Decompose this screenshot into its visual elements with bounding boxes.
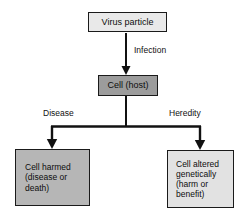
edge-label-infection: Infection [134, 45, 166, 55]
node-cell-host: Cell (host) [98, 75, 158, 96]
node-cell-altered: Cell altered genetically (harm or benefi… [167, 150, 234, 208]
edge-branch-to-altered [195, 126, 205, 150]
edge-branch-to-harmed [47, 126, 57, 149]
node-virus-particle-label: Virus particle [102, 17, 154, 28]
node-cell-harmed: Cell harmed (disease or death) [15, 149, 90, 206]
edge-virus-to-host [122, 33, 131, 75]
flowchart-diagram: Virus particle Cell (host) Cell harmed (… [0, 0, 251, 224]
edge-label-heredity: Heredity [169, 108, 201, 118]
node-cell-altered-label: Cell altered genetically (harm or benefi… [176, 159, 219, 199]
node-cell-host-label: Cell (host) [107, 80, 148, 91]
node-virus-particle: Virus particle [88, 12, 167, 32]
node-cell-harmed-label: Cell harmed (disease or death) [25, 162, 71, 192]
edge-label-disease: Disease [43, 108, 74, 118]
